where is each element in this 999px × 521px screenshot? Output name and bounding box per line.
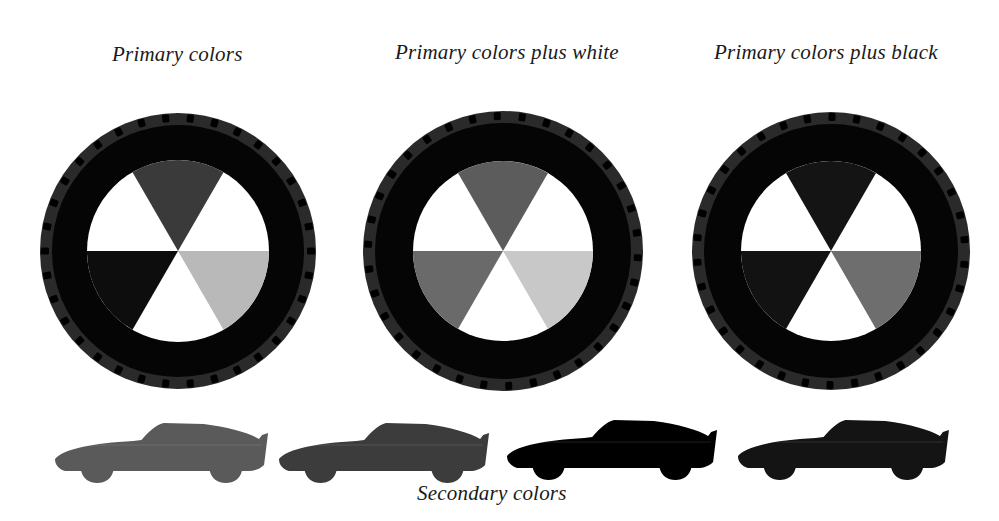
tread-block bbox=[364, 241, 372, 248]
tread-block bbox=[518, 113, 526, 122]
tread-block bbox=[505, 382, 512, 390]
color-wheels bbox=[40, 111, 970, 391]
color-wheel-primary-colors-plus-black bbox=[692, 112, 970, 390]
tread-block bbox=[494, 112, 501, 120]
tread-block bbox=[960, 261, 969, 269]
car-2 bbox=[279, 423, 489, 483]
color-wheel-primary-colors bbox=[40, 113, 316, 389]
car-silhouette bbox=[279, 423, 489, 483]
tread-block bbox=[693, 259, 702, 267]
tread-block bbox=[307, 248, 315, 255]
tread-block bbox=[304, 271, 313, 279]
car-silhouette bbox=[738, 420, 949, 480]
tread-block bbox=[803, 115, 811, 124]
car-silhouette bbox=[507, 420, 717, 480]
tread-block bbox=[43, 222, 52, 230]
tread-block bbox=[634, 254, 642, 261]
tread-block bbox=[162, 379, 170, 388]
car-1 bbox=[55, 423, 268, 483]
tread-block bbox=[632, 229, 641, 237]
car-4 bbox=[738, 420, 949, 480]
color-wheel-primary-colors-plus-white bbox=[363, 111, 643, 391]
tread-block bbox=[693, 234, 702, 242]
tread-block bbox=[826, 381, 833, 389]
tread-block bbox=[186, 114, 194, 123]
tread-block bbox=[850, 378, 858, 387]
tread-block bbox=[304, 222, 313, 230]
tread-block bbox=[43, 271, 52, 279]
car-3 bbox=[507, 420, 717, 480]
tread-block bbox=[186, 379, 194, 388]
tread-block bbox=[828, 113, 835, 121]
figure-canvas bbox=[0, 0, 999, 521]
tread-block bbox=[365, 265, 374, 273]
tread-block bbox=[960, 236, 969, 244]
car-silhouette bbox=[55, 423, 268, 483]
tread-block bbox=[41, 248, 49, 255]
secondary-color-cars bbox=[55, 420, 949, 483]
caption-secondary-colors: Secondary colors bbox=[417, 481, 567, 506]
tread-block bbox=[480, 380, 488, 389]
tread-block bbox=[162, 114, 170, 123]
